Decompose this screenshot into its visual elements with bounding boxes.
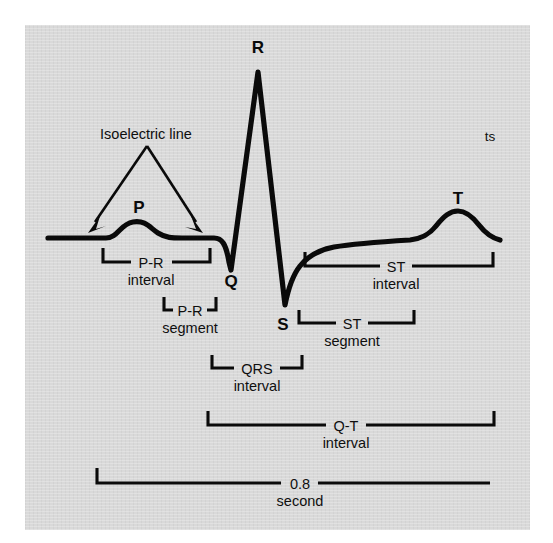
pr-interval-label-line2: interval bbox=[128, 272, 175, 288]
wave-label-s: S bbox=[277, 315, 288, 334]
isoelectric-line-label: Isoelectric line bbox=[100, 126, 192, 142]
duration-label-line1: 0.8 bbox=[290, 476, 310, 492]
ecg-diagram: P Q R S T Isoelectric line P-R interval … bbox=[0, 0, 553, 543]
ecg-figure: P Q R S T Isoelectric line P-R interval … bbox=[0, 0, 553, 543]
qt-interval-label-line2: interval bbox=[323, 435, 370, 451]
qrs-interval-label-line2: interval bbox=[234, 378, 281, 394]
wave-label-p: P bbox=[133, 198, 144, 217]
qt-interval-label-line1: Q-T bbox=[334, 418, 359, 434]
st-interval-label-line1: ST bbox=[387, 259, 406, 275]
pr-segment-label-line1: P-R bbox=[178, 303, 203, 319]
wave-label-q: Q bbox=[224, 272, 237, 291]
wave-label-t: T bbox=[453, 189, 464, 208]
ecg-trace bbox=[48, 72, 500, 305]
corner-note-text: ts bbox=[485, 129, 496, 144]
isoelectric-right-arrow bbox=[147, 146, 203, 233]
qrs-interval-label-line1: QRS bbox=[241, 361, 272, 377]
st-interval-label-line2: interval bbox=[373, 276, 420, 292]
pr-segment-label-line2: segment bbox=[162, 320, 218, 336]
st-segment-label-line1: ST bbox=[343, 316, 362, 332]
st-segment-label-line2: segment bbox=[324, 333, 380, 349]
pr-interval-label-line1: P-R bbox=[139, 255, 164, 271]
duration-label-line2: second bbox=[277, 493, 324, 509]
wave-label-r: R bbox=[252, 38, 264, 57]
